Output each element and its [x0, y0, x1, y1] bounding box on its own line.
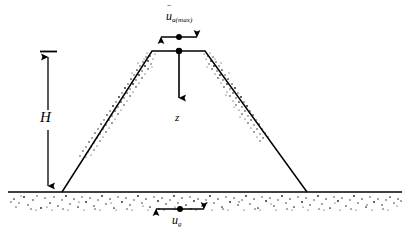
ground-accel-variable-stack: ¨ u [172, 214, 178, 226]
crest-acceleration-arrow [161, 34, 197, 40]
embankment-diagram-figure: H z ¨ u a(max) ¨ u g [0, 0, 410, 247]
depth-axis-arrow [176, 48, 182, 98]
ground-acceleration-label: ¨ u g [172, 214, 182, 228]
embankment-outline [62, 51, 307, 192]
ground-acceleration-arrow [156, 206, 204, 212]
crest-accel-double-dot-accent: ¨ [167, 3, 171, 14]
crest-arrow-center-dot [176, 34, 182, 40]
diagram-canvas [0, 0, 410, 247]
ground-accel-double-dot-accent: ¨ [173, 207, 177, 218]
right-slope-stipple [203, 52, 268, 141]
crest-acceleration-label: ¨ u a(max) [166, 10, 192, 24]
soil-stipple-band [10, 195, 401, 211]
ground-arrow-center-dot [177, 206, 183, 212]
crest-accel-variable-stack: ¨ u [166, 10, 172, 22]
crest-node-dot [176, 48, 182, 54]
depth-label: z [175, 112, 179, 123]
height-label: H [40, 110, 51, 125]
crest-accel-subscript: a(max) [172, 16, 192, 24]
ground-accel-subscript: g [178, 220, 182, 228]
